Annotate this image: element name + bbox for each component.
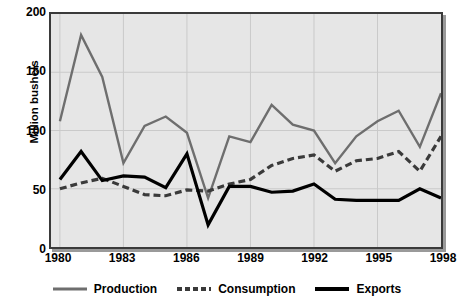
x-tick-label: 1983 (92, 252, 152, 264)
x-tick-label: 1989 (221, 252, 281, 264)
legend-item-exports[interactable]: Exports (315, 283, 401, 295)
legend-item-production[interactable]: Production (53, 283, 157, 295)
chart-legend: ProductionConsumptionExports (0, 278, 454, 300)
line-dashed-dark-icon (177, 283, 211, 295)
plot-area (49, 12, 443, 249)
x-tick-label: 1992 (285, 252, 345, 264)
y-tick-label: 50 (6, 184, 46, 196)
y-tick-label: 200 (6, 6, 46, 18)
legend-label: Production (94, 283, 157, 295)
y-tick-label: 150 (6, 65, 46, 77)
x-tick-label: 1995 (349, 252, 409, 264)
x-axis-tick-labels: 1980198319861989199219951998 (0, 252, 454, 270)
x-tick-label: 1980 (28, 252, 88, 264)
legend-label: Consumption (218, 283, 295, 295)
line-solid-gray-icon (53, 283, 87, 295)
x-tick-label: 1998 (413, 252, 461, 264)
plot-canvas (51, 14, 441, 247)
legend-label: Exports (356, 283, 401, 295)
legend-item-consumption[interactable]: Consumption (177, 283, 295, 295)
x-tick-label: 1986 (156, 252, 216, 264)
line-solid-black-icon (315, 283, 349, 295)
y-tick-label: 100 (6, 125, 46, 137)
